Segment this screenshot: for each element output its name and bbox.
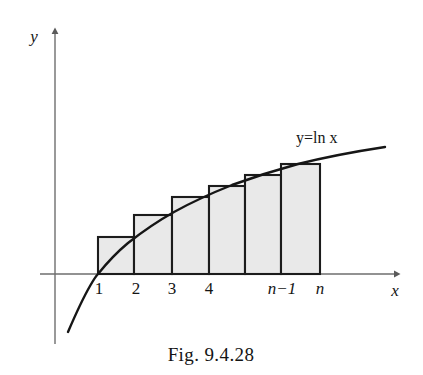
y-axis-label: y (28, 27, 38, 46)
x-tick-label-1: 1 (95, 279, 104, 298)
riemann-bar-5 (245, 175, 281, 274)
riemann-bar-4 (209, 186, 245, 274)
x-axis-arrowhead (394, 271, 401, 278)
x-axis-label: x (390, 281, 399, 300)
x-tick-label-4: 4 (205, 279, 214, 298)
riemann-rectangles-group (98, 164, 320, 274)
figure-container: 1 2 3 4 n−1 n y x y=ln x Fig. 9.4.28 (0, 0, 423, 375)
figure-caption: Fig. 9.4.28 (168, 344, 255, 365)
ln-x-riemann-sum-figure: 1 2 3 4 n−1 n y x y=ln x Fig. 9.4.28 (0, 0, 423, 375)
x-tick-label-3: 3 (168, 279, 177, 298)
x-tick-labels-group: 1 2 3 4 n−1 n (95, 279, 325, 298)
y-axis-arrowhead (52, 28, 59, 35)
curve-equation-label: y=ln x (296, 129, 337, 147)
x-tick-label-n-minus-1: n−1 (268, 279, 296, 298)
riemann-bar-6 (281, 164, 320, 274)
riemann-bar-3 (172, 197, 209, 274)
x-tick-label-n: n (316, 279, 325, 298)
x-tick-label-2: 2 (132, 279, 141, 298)
